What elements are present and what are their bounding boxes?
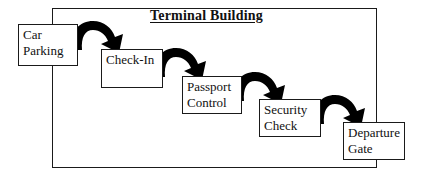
process-box-security-check[interactable]: Security Check [259, 99, 321, 137]
box-label-line-1: Car [23, 27, 73, 43]
box-label-line-2: Parking [23, 43, 73, 59]
box-label-line-2: Gate [348, 141, 400, 157]
box-label-line-1: Check-In [106, 52, 158, 68]
diagram-title: Terminal Building [150, 8, 263, 24]
process-box-departure-gate[interactable]: Departure Gate [343, 122, 405, 160]
terminal-building-diagram: Terminal Building Car Parking Check-In P… [0, 0, 421, 187]
box-label-line-2: Check [264, 118, 316, 134]
box-label-line-1: Passport [187, 79, 237, 95]
box-label-line-1: Departure [348, 125, 400, 141]
process-box-passport-control[interactable]: Passport Control [182, 76, 242, 114]
box-label-line-2: Control [187, 95, 237, 111]
box-label-line-1: Security [264, 102, 316, 118]
process-box-check-in[interactable]: Check-In [101, 49, 163, 88]
process-box-car-parking[interactable]: Car Parking [18, 24, 78, 66]
